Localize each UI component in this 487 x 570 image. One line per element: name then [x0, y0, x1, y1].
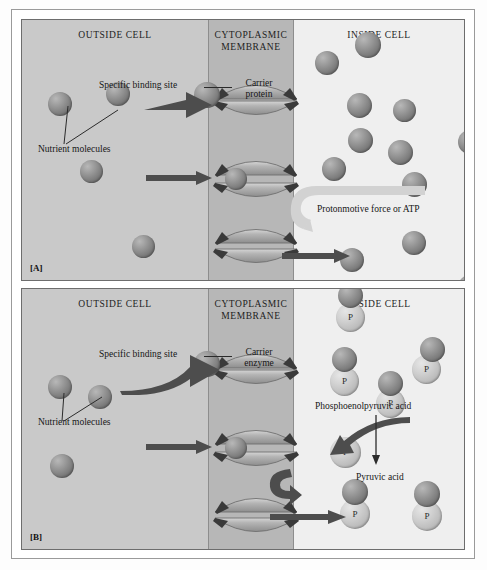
- nutrient-molecule: [80, 160, 103, 183]
- nutrient-molecule: [388, 140, 413, 165]
- phosphate-glyph: P: [342, 376, 347, 386]
- nutrient-molecule: [50, 454, 74, 478]
- panel-b-membrane-label-line2: MEMBRANE: [208, 311, 294, 323]
- panel-b: OUTSIDE CELL CYTOPLASMIC MEMBRANE INSIDE…: [21, 288, 465, 550]
- panel-b-pyruvate-arrow: [370, 415, 384, 469]
- panel-a-membrane-label-line1: CYTOPLASMIC: [208, 30, 294, 42]
- panel-b-carrier-label: Carrier enzyme: [229, 347, 289, 369]
- panel-a-nutrient-leaders: [52, 100, 142, 146]
- panel-a-tag: [A]: [30, 263, 43, 273]
- panel-a-carrier-label-line1: Carrier: [229, 78, 289, 89]
- nutrient-molecule: [378, 371, 403, 396]
- panel-b-phosphoryl-curve-arrow: [260, 465, 304, 505]
- nutrient-molecule: [332, 347, 357, 372]
- panel-b-tag: [B]: [30, 532, 42, 542]
- carrier-lower-leaflet: [212, 367, 300, 397]
- nutrient-molecule: [393, 99, 416, 122]
- carrier-lower-leaflet: [212, 98, 300, 128]
- nutrient-molecule: [355, 32, 381, 58]
- nutrient-molecule: [348, 128, 373, 153]
- nutrient-molecule: [414, 481, 440, 507]
- phosphate-glyph: P: [424, 364, 429, 374]
- panel-b-carrier-label-line1: Carrier: [229, 347, 289, 358]
- panel-a: OUTSIDE CELL CYTOPLASMIC MEMBRANE INSIDE…: [21, 19, 465, 281]
- panel-a-uptake-arrow: [142, 88, 218, 120]
- panel-b-pep-label: Phosphoenolpyruvic acid: [315, 401, 411, 411]
- panel-a-membrane-label: CYTOPLASMIC MEMBRANE: [208, 30, 294, 53]
- panel-a-carrier-label: Carrier protein: [229, 78, 289, 100]
- panel-b-uptake-arrow: [116, 349, 224, 395]
- panel-a-release-arrow: [282, 248, 354, 264]
- panel-b-carrier-label-line2: enzyme: [229, 358, 289, 369]
- nutrient-molecule: [132, 235, 155, 258]
- panel-b-pep-transfer-arrow: [314, 417, 414, 463]
- panel-b-membrane-label-line1: CYTOPLASMIC: [208, 299, 294, 311]
- panel-a-energy-label: Protonmotive force or ATP: [317, 204, 420, 214]
- panel-b-membrane-label: CYTOPLASMIC MEMBRANE: [208, 299, 294, 322]
- nutrient-molecule: [322, 157, 346, 181]
- phosphate-glyph: P: [424, 511, 429, 521]
- phosphate-glyph: P: [352, 509, 357, 519]
- panel-b-nutrient-leaders: [52, 385, 122, 423]
- panel-a-outside-label: OUTSIDE CELL: [22, 30, 208, 42]
- panel-b-inside-label: INSIDE CELL: [294, 299, 464, 311]
- figure-page: OUTSIDE CELL CYTOPLASMIC MEMBRANE INSIDE…: [0, 0, 487, 570]
- translocating-nutrient-molecule: [225, 168, 247, 190]
- translocating-nutrient-molecule: [225, 437, 247, 459]
- panel-b-transit-arrow: [146, 439, 216, 455]
- phosphate-glyph: P: [348, 312, 353, 322]
- panel-b-pyruvic-label: Pyruvic acid: [356, 472, 404, 482]
- nutrient-molecule: [315, 51, 339, 75]
- nutrient-molecule: [342, 479, 368, 505]
- nutrient-molecule: [347, 93, 372, 118]
- panel-a-membrane-label-line2: MEMBRANE: [208, 42, 294, 54]
- panel-b-outside-label: OUTSIDE CELL: [22, 299, 208, 311]
- panel-a-transit-arrow: [146, 170, 216, 186]
- panel-b-release-arrow: [270, 509, 350, 525]
- panel-a-carrier-label-line2: protein: [229, 89, 289, 100]
- nutrient-molecule: [420, 337, 445, 362]
